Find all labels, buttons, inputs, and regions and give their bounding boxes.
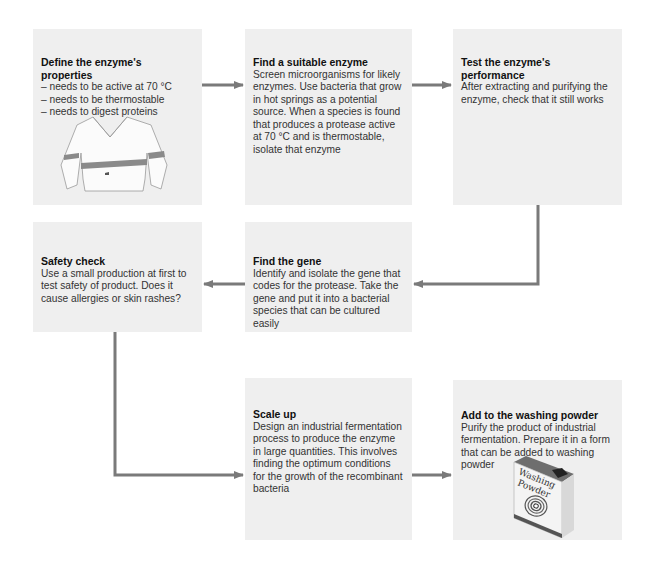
step-define-properties: Define the enzyme's properties needs to … xyxy=(33,29,202,205)
step-title: Safety check xyxy=(41,255,194,268)
step-add-to-washing-powder: Add to the washing powder Purify the pro… xyxy=(453,380,622,540)
arrow-test-to-find-gene xyxy=(414,205,538,284)
step-description: Screen microorganisms for likely enzymes… xyxy=(253,69,404,157)
step-description: Use a small production at first to test … xyxy=(41,268,194,306)
step-description: Design an industrial fermentation proces… xyxy=(253,421,404,496)
sweater-illustration xyxy=(55,113,175,193)
step-title: Test the enzyme's performance xyxy=(461,56,614,81)
arrow-safety-to-scale-up xyxy=(115,332,243,475)
step-title: Find a suitable enzyme xyxy=(253,56,404,69)
step-test-performance: Test the enzyme's performance After extr… xyxy=(453,29,622,205)
step-description: After extracting and purifying the enzym… xyxy=(461,81,614,106)
step-find-gene: Find the gene Identify and isolate the g… xyxy=(245,222,412,332)
step-title: Define the enzyme's properties xyxy=(41,56,194,81)
step-title: Scale up xyxy=(253,408,404,421)
step-title: Add to the washing powder xyxy=(461,409,614,422)
step-find-enzyme: Find a suitable enzyme Screen microorgan… xyxy=(245,29,412,205)
step-title: Find the gene xyxy=(253,255,404,268)
property-item: needs to be thermostable xyxy=(41,94,194,107)
washing-powder-box-illustration: Washing Powder xyxy=(508,456,578,538)
step-safety-check: Safety check Use a small production at f… xyxy=(33,222,202,332)
step-scale-up: Scale up Design an industrial fermentati… xyxy=(245,378,412,540)
property-item: needs to be active at 70 °C xyxy=(41,81,194,94)
step-description: Identify and isolate the gene that codes… xyxy=(253,268,404,331)
